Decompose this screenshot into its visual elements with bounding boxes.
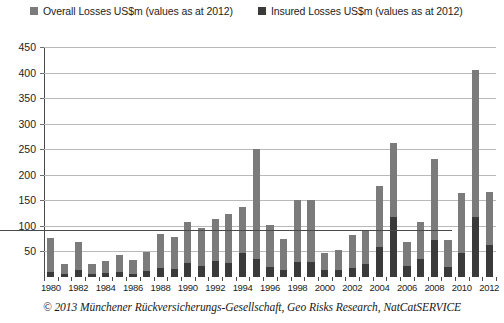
losses-bar-chart: Overall Losses US$m (values as at 2012) …	[0, 0, 504, 323]
x-tick-mark	[304, 277, 305, 281]
x-tick-mark	[195, 277, 196, 281]
bar-group	[294, 47, 301, 277]
y-tick-label: 50	[24, 246, 36, 257]
legend-label-insured-losses: Insured Losses US$m (values as at 2012)	[271, 5, 463, 17]
x-tick-label: 2006	[397, 282, 417, 293]
x-tick-mark	[428, 277, 429, 281]
bar-insured-losses	[417, 259, 424, 277]
bar-group	[129, 47, 136, 277]
x-tick-mark	[126, 277, 127, 281]
bar-group	[417, 47, 424, 277]
bar-group	[349, 47, 356, 277]
y-tick-label: 200	[18, 169, 36, 180]
y-tick-label: 300	[18, 118, 36, 129]
bar-insured-losses	[266, 267, 273, 277]
bar-group	[75, 47, 82, 277]
bar-insured-losses	[349, 268, 356, 277]
bar-group	[458, 47, 465, 277]
x-tick-mark	[332, 277, 333, 281]
x-tick-mark	[99, 277, 100, 281]
x-tick-label: 2002	[342, 282, 362, 293]
x-tick-mark	[277, 277, 278, 281]
x-tick-mark	[263, 277, 264, 281]
bar-group	[47, 47, 54, 277]
legend-item-insured-losses: Insured Losses US$m (values as at 2012)	[258, 5, 463, 17]
x-tick-label: 2012	[479, 282, 499, 293]
bar-group	[198, 47, 205, 277]
x-tick-mark	[71, 277, 72, 281]
x-tick-mark	[318, 277, 319, 281]
x-tick-label: 1984	[96, 282, 116, 293]
bar-group	[253, 47, 260, 277]
x-tick-mark	[441, 277, 442, 281]
x-tick-mark	[222, 277, 223, 281]
x-tick-label: 2008	[424, 282, 444, 293]
bar-group	[280, 47, 287, 277]
x-tick-mark	[291, 277, 292, 281]
chart-legend: Overall Losses US$m (values as at 2012) …	[0, 4, 504, 26]
bar-insured-losses	[280, 270, 287, 277]
plot-area	[44, 47, 496, 277]
bar-group	[321, 47, 328, 277]
x-tick-label: 1994	[233, 282, 253, 293]
bar-insured-losses	[472, 217, 479, 277]
x-tick-label: 1996	[260, 282, 280, 293]
bar-insured-losses	[307, 262, 314, 277]
bar-group	[431, 47, 438, 277]
bar-insured-losses	[486, 245, 493, 277]
y-tick-label: 150	[18, 195, 36, 206]
x-tick-mark	[154, 277, 155, 281]
x-tick-label: 1992	[205, 282, 225, 293]
bar-group	[403, 47, 410, 277]
bar-group	[266, 47, 273, 277]
x-tick-mark	[236, 277, 237, 281]
bar-insured-losses	[444, 267, 451, 277]
bar-insured-losses	[390, 217, 397, 277]
bar-group	[171, 47, 178, 277]
bar-group	[376, 47, 383, 277]
bar-insured-losses	[225, 263, 232, 277]
y-tick-label: 350	[18, 93, 36, 104]
x-tick-label: 1988	[150, 282, 170, 293]
bar-group	[116, 47, 123, 277]
x-tick-mark	[400, 277, 401, 281]
x-tick-mark	[181, 277, 182, 281]
bar-insured-losses	[431, 240, 438, 277]
bar-group	[212, 47, 219, 277]
bar-insured-losses	[335, 270, 342, 277]
legend-item-overall-losses: Overall Losses US$m (values as at 2012)	[30, 5, 233, 17]
chart-caption: © 2013 Münchener Rückversicherungs-Gesel…	[0, 300, 504, 314]
bar-insured-losses	[157, 268, 164, 277]
bar-group	[239, 47, 246, 277]
x-tick-mark	[85, 277, 86, 281]
bar-group	[61, 47, 68, 277]
x-tick-mark	[373, 277, 374, 281]
x-tick-mark	[208, 277, 209, 281]
x-tick-label: 2000	[315, 282, 335, 293]
x-tick-mark	[496, 277, 497, 281]
y-axis: 50100150200250300350400450	[0, 47, 40, 277]
bar-insured-losses	[294, 262, 301, 277]
x-tick-mark	[44, 277, 45, 281]
y-tick-label: 250	[18, 144, 36, 155]
bar-insured-losses	[171, 269, 178, 277]
bar-insured-losses	[362, 264, 369, 277]
bar-group	[472, 47, 479, 277]
x-tick-mark	[249, 277, 250, 281]
x-tick-mark	[112, 277, 113, 281]
bar-insured-losses	[198, 266, 205, 277]
bar-group	[225, 47, 232, 277]
x-tick-mark	[386, 277, 387, 281]
bar-insured-losses	[239, 253, 246, 277]
x-axis-line	[0, 230, 452, 231]
x-tick-mark	[167, 277, 168, 281]
x-tick-mark	[455, 277, 456, 281]
x-tick-mark	[140, 277, 141, 281]
x-tick-label: 1986	[123, 282, 143, 293]
x-tick-mark	[414, 277, 415, 281]
bar-insured-losses	[376, 247, 383, 277]
x-tick-label: 2010	[452, 282, 472, 293]
x-tick-mark	[359, 277, 360, 281]
bar-insured-losses	[75, 270, 82, 277]
x-tick-label: 1990	[178, 282, 198, 293]
